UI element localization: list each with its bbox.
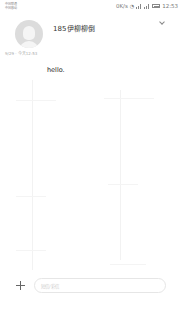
signal-icon-2	[144, 4, 150, 9]
status-bar: 中国联通 中国移动 0K/s ◔ 12:53	[0, 0, 182, 14]
carrier-info: 中国联通 中国移动	[5, 2, 17, 10]
carrier-line-2: 中国移动	[5, 6, 17, 10]
composer-bar: 短信/彩信	[0, 274, 182, 300]
wifi-icon: ◔	[130, 3, 134, 9]
contact-name[interactable]: 185伊柳柳倒	[53, 23, 95, 33]
status-indicators: 0K/s ◔ 12:53	[116, 3, 178, 9]
message-input-placeholder: 短信/彩信	[41, 283, 59, 289]
chevron-down-icon[interactable]	[159, 19, 165, 25]
message-input[interactable]: 短信/彩信	[34, 278, 166, 293]
avatar[interactable]	[15, 20, 43, 48]
message-text[interactable]: hello.	[47, 66, 65, 74]
conversation-header: 185伊柳柳倒	[0, 14, 182, 54]
battery-icon	[152, 4, 160, 8]
clock: 12:53	[162, 3, 178, 9]
net-speed: 0K/s	[116, 3, 128, 9]
background-watermark	[0, 80, 182, 270]
signal-icon-1	[136, 4, 142, 9]
plus-icon[interactable]	[16, 281, 25, 290]
message-date: 9/29 · 今天12:53	[5, 50, 37, 56]
